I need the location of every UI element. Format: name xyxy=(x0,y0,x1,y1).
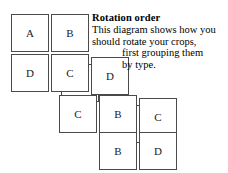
crop-box-label: B xyxy=(66,27,73,38)
body-line-3: first grouping them xyxy=(92,47,226,59)
crop-box-d-1[interactable]: D xyxy=(11,54,49,92)
crop-box-c-3[interactable]: C xyxy=(139,98,177,136)
crop-box-label: D xyxy=(154,145,162,156)
crop-box-label: C xyxy=(66,67,73,78)
crop-box-c-2[interactable]: C xyxy=(59,95,97,133)
crop-box-label: C xyxy=(154,111,161,122)
crop-box-label: B xyxy=(114,145,121,156)
crop-box-label: D xyxy=(26,67,34,78)
body-line-4: by type. xyxy=(92,59,226,71)
crop-box-label: D xyxy=(106,70,114,81)
crop-box-b-3[interactable]: B xyxy=(99,132,137,170)
crop-box-label: A xyxy=(26,27,34,38)
crop-box-label: C xyxy=(74,108,81,119)
body-line-1: This diagram shows how you xyxy=(92,24,226,36)
crop-box-c-1[interactable]: C xyxy=(51,54,89,92)
text-block: Rotation order This diagram shows how yo… xyxy=(92,12,226,70)
page-title: Rotation order xyxy=(92,12,226,24)
diagram-canvas: A B D C D C B C B D Rotation order This … xyxy=(0,0,228,173)
body-line-2: should rotate your crops, xyxy=(92,36,226,48)
crop-box-label: B xyxy=(114,108,121,119)
crop-box-d-3[interactable]: D xyxy=(139,132,177,170)
crop-box-b-1[interactable]: B xyxy=(51,14,89,52)
crop-box-a-1[interactable]: A xyxy=(11,14,49,52)
crop-box-b-2[interactable]: B xyxy=(99,95,137,133)
